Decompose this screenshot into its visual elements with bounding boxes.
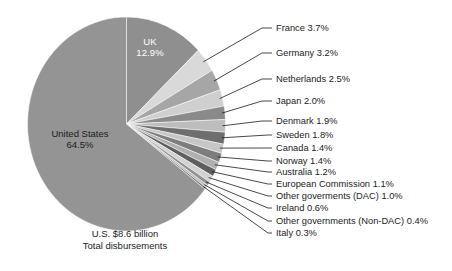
callout-label: Netherlands 2.5% bbox=[276, 74, 350, 84]
callout-label: Ireland 0.6% bbox=[276, 203, 328, 213]
callout-label: Sweden 1.8% bbox=[276, 130, 333, 140]
callout-label: Denmark 1.9% bbox=[276, 116, 338, 126]
callout-label: Italy 0.3% bbox=[276, 228, 317, 238]
callout-label: Other goverments (DAC) 1.0% bbox=[276, 191, 403, 201]
callout-label-group: France 3.7%Germany 3.2%Netherlands 2.5%J… bbox=[0, 0, 452, 271]
callout-label: Germany 3.2% bbox=[276, 48, 338, 58]
callout-label: Norway 1.4% bbox=[276, 156, 331, 166]
callout-label: Japan 2.0% bbox=[276, 96, 325, 106]
callout-label: European Commission 1.1% bbox=[276, 179, 394, 189]
pie-chart-figure: UK 12.9% United States 64.5% U.S. $8.6 b… bbox=[0, 0, 452, 271]
callout-label: Canada 1.4% bbox=[276, 143, 332, 153]
callout-label: Other governments (Non-DAC) 0.4% bbox=[276, 216, 428, 226]
callout-label: Australia 1.2% bbox=[276, 167, 336, 177]
callout-label: France 3.7% bbox=[276, 23, 329, 33]
